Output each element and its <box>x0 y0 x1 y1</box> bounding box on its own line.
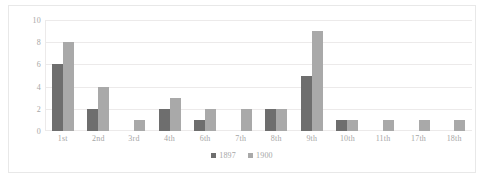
bar-group <box>116 20 152 131</box>
x-axis-tick-label: 2nd <box>81 132 117 148</box>
bar-1897-1st[interactable] <box>52 64 63 131</box>
bar-group <box>81 20 117 131</box>
bar-group <box>152 20 188 131</box>
legend-label: 1900 <box>256 151 273 160</box>
y-axis-tick-label: 10 <box>33 16 41 25</box>
legend-swatch-icon <box>211 153 216 158</box>
bar-1897-6th[interactable] <box>194 120 205 131</box>
x-axis-tick-label: 6th <box>187 132 223 148</box>
bar-group <box>436 20 472 131</box>
bar-1897-2nd[interactable] <box>87 109 98 131</box>
bar-chart: 0246810 1st2nd3rd4th6th7th8th9th10th11th… <box>0 0 484 181</box>
bar-1900-10th[interactable] <box>347 120 358 131</box>
bar-group <box>187 20 223 131</box>
bar-1900-18th[interactable] <box>454 120 465 131</box>
x-axis-tick-label: 11th <box>365 132 401 148</box>
plot-area <box>45 20 472 131</box>
bar-1897-4th[interactable] <box>159 109 170 131</box>
y-axis-tick-label: 8 <box>37 38 41 47</box>
bar-groups <box>45 20 472 131</box>
bar-group <box>223 20 259 131</box>
bar-group <box>258 20 294 131</box>
bar-1897-10th[interactable] <box>336 120 347 131</box>
x-axis-tick-label: 17th <box>401 132 437 148</box>
bar-1900-3rd[interactable] <box>134 120 145 131</box>
bar-1900-9th[interactable] <box>312 31 323 131</box>
bar-1900-7th[interactable] <box>241 109 252 131</box>
x-axis-tick-labels: 1st2nd3rd4th6th7th8th9th10th11th17th18th <box>45 132 472 148</box>
bar-group <box>401 20 437 131</box>
y-axis-tick-labels: 0246810 <box>17 20 41 131</box>
chart-legend: 18971900 <box>9 151 475 160</box>
bar-1900-11th[interactable] <box>383 120 394 131</box>
x-axis-tick-label: 9th <box>294 132 330 148</box>
bar-group <box>365 20 401 131</box>
chart-plot-frame: 0246810 1st2nd3rd4th6th7th8th9th10th11th… <box>8 5 476 173</box>
legend-item-1897[interactable]: 1897 <box>211 151 236 160</box>
x-axis-tick-label: 18th <box>436 132 472 148</box>
legend-item-1900[interactable]: 1900 <box>248 151 273 160</box>
x-axis-tick-label: 4th <box>152 132 188 148</box>
y-axis-tick-label: 2 <box>37 104 41 113</box>
bar-1900-1st[interactable] <box>63 42 74 131</box>
legend-swatch-icon <box>248 153 253 158</box>
x-axis-tick-label: 10th <box>330 132 366 148</box>
x-axis-tick-label: 7th <box>223 132 259 148</box>
bar-1900-17th[interactable] <box>419 120 430 131</box>
y-axis-tick-label: 4 <box>37 82 41 91</box>
y-axis-tick-label: 6 <box>37 60 41 69</box>
x-axis-tick-label: 8th <box>258 132 294 148</box>
bar-group <box>294 20 330 131</box>
bar-1900-2nd[interactable] <box>98 87 109 131</box>
bar-1900-4th[interactable] <box>170 98 181 131</box>
x-axis-tick-label: 1st <box>45 132 81 148</box>
bar-1897-8th[interactable] <box>265 109 276 131</box>
bar-1900-6th[interactable] <box>205 109 216 131</box>
bar-group <box>330 20 366 131</box>
bar-group <box>45 20 81 131</box>
legend-label: 1897 <box>219 151 236 160</box>
y-axis-tick-label: 0 <box>37 127 41 136</box>
x-axis-tick-label: 3rd <box>116 132 152 148</box>
bar-1897-9th[interactable] <box>301 76 312 132</box>
bar-1900-8th[interactable] <box>276 109 287 131</box>
